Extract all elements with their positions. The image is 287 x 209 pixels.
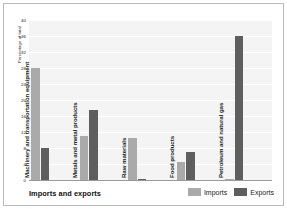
y-axis-title: Percentage of total xyxy=(17,5,22,85)
bars-layer xyxy=(29,20,272,180)
legend-swatch-imports xyxy=(188,188,201,196)
plot-area: 0481216202428323640 Machinery and transp… xyxy=(29,20,272,180)
bar-imports xyxy=(225,179,234,180)
bar-exports xyxy=(235,36,244,180)
y-tick-label: 32 xyxy=(21,50,26,55)
bar-exports xyxy=(138,179,147,180)
category-label: Raw materials xyxy=(120,138,127,178)
category-label: Food products xyxy=(168,136,175,178)
bar-exports xyxy=(41,148,50,180)
category-label: Machinery and transportation equipment xyxy=(23,62,30,178)
y-tick-label: 36 xyxy=(21,34,26,39)
category-label: Petroleum and natural gas xyxy=(217,103,224,178)
bar-exports xyxy=(186,152,195,180)
gridline xyxy=(29,180,272,181)
legend-label-exports: Exports xyxy=(250,189,274,196)
legend-swatch-exports xyxy=(234,188,247,196)
bar-imports xyxy=(177,162,186,180)
y-tick-label: 40 xyxy=(21,18,26,23)
legend-label-imports: Imports xyxy=(204,189,227,196)
bar-imports xyxy=(128,138,137,180)
bar-imports xyxy=(80,136,89,180)
chart-legend: Imports Exports xyxy=(188,188,274,196)
y-tick-label: 0 xyxy=(24,178,26,183)
chart-title: Imports and exports xyxy=(29,189,101,198)
legend-item-exports: Exports xyxy=(234,188,274,196)
bar-exports xyxy=(89,110,98,180)
category-label: Metals and metal products xyxy=(71,102,78,178)
legend-item-imports: Imports xyxy=(188,188,227,196)
chart-figure: Percentage of total 0481216202428323640 … xyxy=(0,0,287,209)
bar-imports xyxy=(31,68,40,180)
